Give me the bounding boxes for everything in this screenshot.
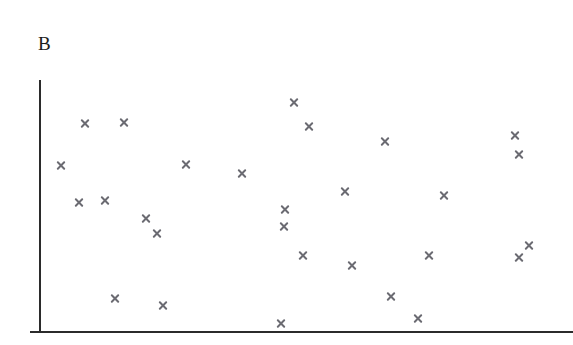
scatter-point (510, 130, 521, 141)
scatter-point (514, 252, 525, 263)
scatter-point (119, 117, 130, 128)
scatter-point (524, 240, 535, 251)
page-title: B (38, 34, 51, 53)
scatter-point (276, 318, 287, 329)
scatter-point (340, 186, 351, 197)
scatter-point (439, 190, 450, 201)
scatter-point (110, 293, 121, 304)
scatter-point (80, 118, 91, 129)
scatter-point (514, 149, 525, 160)
origin-tick-mark (30, 331, 41, 333)
plot-area (0, 0, 573, 345)
scatter-point (304, 121, 315, 132)
scatter-point (74, 197, 85, 208)
scatter-point (289, 97, 300, 108)
scatter-point (280, 204, 291, 215)
scatter-point (56, 160, 67, 171)
scatter-point (141, 213, 152, 224)
clipped-caption-text: · · (0, 0, 18, 5)
scatter-point (152, 228, 163, 239)
y-axis-line (39, 80, 41, 332)
scatter-point (424, 250, 435, 261)
scatter-point (298, 250, 309, 261)
scatter-point (279, 221, 290, 232)
scatter-plot-figure: · · B (0, 0, 573, 345)
scatter-point (100, 195, 111, 206)
scatter-point (386, 291, 397, 302)
x-axis-line (30, 331, 573, 333)
scatter-point (413, 313, 424, 324)
scatter-point (158, 300, 169, 311)
scatter-point (237, 168, 248, 179)
scatter-point (181, 159, 192, 170)
scatter-point (347, 260, 358, 271)
clipped-caption-above: · · (0, 0, 573, 7)
scatter-point (380, 136, 391, 147)
